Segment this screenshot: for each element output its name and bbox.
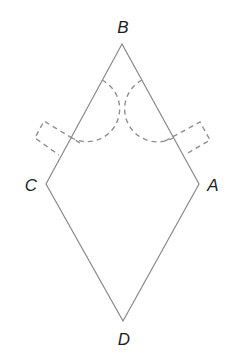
right-dashed-rectangle <box>165 122 210 153</box>
vertex-label-d: D <box>118 331 130 348</box>
vertex-label-a: A <box>207 177 218 194</box>
left-dashed-arc <box>72 80 120 142</box>
vertex-label-b: B <box>117 19 128 36</box>
vertex-label-c: C <box>25 177 37 194</box>
right-dashed-arc <box>125 80 173 142</box>
rhombus-outline <box>46 44 199 321</box>
